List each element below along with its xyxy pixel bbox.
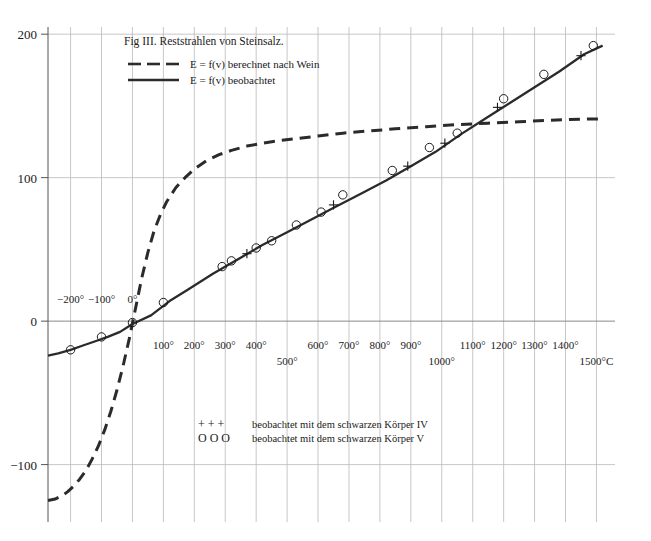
marker-legend-label-body-iv: beobachtet mit dem schwarzen Körper IV [252, 419, 428, 430]
x-tick-label-14: 1200° [490, 339, 516, 351]
x-tick-label-0: −200° [57, 293, 84, 305]
chart-title: Fig III. Reststrahlen von Steinsalz. [124, 35, 284, 48]
data-point-circle-12 [425, 143, 433, 151]
data-point-circle-10 [339, 191, 347, 199]
data-point-circle-11 [388, 166, 396, 174]
marker-layer [66, 41, 597, 354]
grid-layer [48, 27, 615, 522]
x-tick-label-3: 100° [153, 339, 174, 351]
chart-legend: Fig III. Reststrahlen von Steinsalz. E =… [124, 35, 320, 87]
x-tick-label-11: 900° [400, 339, 421, 351]
data-point-circle-15 [540, 70, 548, 78]
marker-legend-label-body-v: beobachtet mit dem schwarzen Körper V [252, 433, 425, 444]
x-tick-label-4: 200° [184, 339, 205, 351]
x-tick-label-12: 1000° [429, 355, 455, 367]
marker-legend-glyphs-circle: O O O [198, 431, 230, 445]
axis-layer [41, 27, 48, 522]
x-tick-label-6: 400° [246, 339, 267, 351]
y-tick-label-2: 0 [31, 314, 38, 329]
y-tick-label-1: 100 [18, 171, 38, 186]
y-tick-label-3: −100 [10, 458, 37, 473]
x-tick-label-10: 800° [369, 339, 390, 351]
legend-label-observed: E = f(v) beobachtet [190, 74, 275, 87]
x-tick-label-5: 300° [215, 339, 236, 351]
marker-legend: + + + beobachtet mit dem schwarzen Körpe… [198, 417, 428, 445]
chart-svg: 2001000−100−200°−100°0°100°200°300°400°5… [0, 0, 651, 541]
x-tick-label-1: −100° [88, 293, 115, 305]
series-path-observed [48, 46, 603, 356]
x-tick-label-9: 700° [339, 339, 360, 351]
x-tick-label-7: 500° [277, 355, 298, 367]
x-tick-label-15: 1300° [521, 339, 547, 351]
y-tick-label-0: 200 [18, 27, 38, 42]
legend-label-calculated: E = f(v) berechnet nach Wein [190, 58, 320, 71]
x-tick-label-13: 1100° [460, 339, 486, 351]
x-tick-label-17: 1500°C [580, 355, 614, 367]
x-tick-label-16: 1400° [552, 339, 578, 351]
figure-container: 2001000−100−200°−100°0°100°200°300°400°5… [0, 0, 651, 541]
x-tick-label-2: 0° [127, 293, 137, 305]
x-tick-label-8: 600° [308, 339, 329, 351]
marker-legend-glyphs-plus: + + + [198, 417, 225, 431]
